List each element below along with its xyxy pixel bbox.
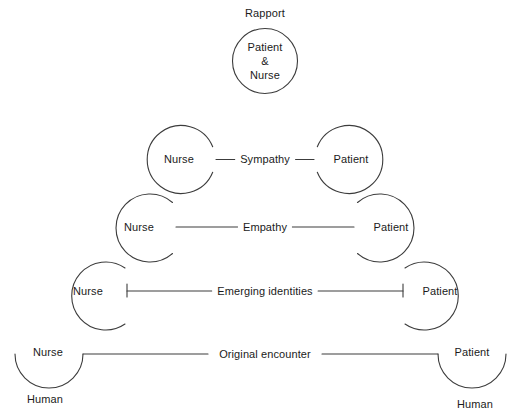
original-stage-label: Original encounter	[214, 348, 316, 361]
sympathy-nurse-label: Nurse	[164, 153, 194, 166]
empathy-patient-label: Patient	[374, 221, 409, 234]
emerging-nurse-label: Nurse	[73, 285, 103, 298]
original-patient-sub-label: Human	[457, 398, 493, 411]
original-patient-label: Patient	[455, 346, 490, 359]
emerging-patient-label: Patient	[423, 285, 458, 298]
original-nurse-label: Nurse	[33, 346, 63, 359]
empathy-nurse-label: Nurse	[124, 221, 154, 234]
original-nurse-semicircle	[15, 354, 83, 388]
empathy-stage-label: Empathy	[238, 221, 292, 234]
apex-circle-label: Patient & Nurse	[248, 40, 283, 82]
sympathy-stage-label: Sympathy	[235, 153, 295, 166]
emerging-stage-label: Emerging identities	[212, 285, 317, 298]
original-patient-semicircle	[438, 354, 506, 388]
sympathy-patient-label: Patient	[334, 153, 369, 166]
original-nurse-sub-label: Human	[27, 393, 63, 406]
rapport-title: Rapport	[245, 7, 285, 20]
